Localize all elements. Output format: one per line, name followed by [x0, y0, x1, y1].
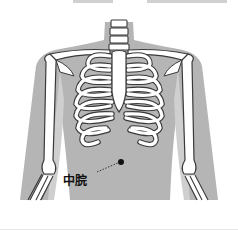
- sternum: [112, 51, 126, 113]
- cervical-spine: [109, 20, 129, 50]
- divider: [0, 229, 238, 230]
- acupoint-marker: [118, 159, 124, 165]
- torso-skeleton-illustration: [0, 0, 238, 233]
- acupoint-label: 中脘: [63, 171, 87, 188]
